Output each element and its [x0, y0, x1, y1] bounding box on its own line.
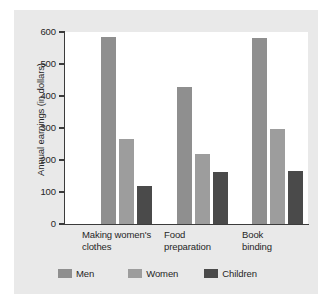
legend-swatch-women: [128, 269, 142, 278]
bar-women-1: [195, 154, 210, 224]
x-axis-label-1: Food preparation: [164, 229, 211, 252]
y-axis-tick-label: 500: [40, 59, 56, 69]
legend-item-men: Men: [58, 268, 94, 279]
bar-men-0: [101, 37, 116, 224]
y-axis-tick-label: 600: [40, 27, 56, 37]
bar-women-2: [270, 129, 285, 224]
bar-men-1: [177, 87, 192, 224]
y-axis-title: Annual earnings (in dollars): [35, 30, 46, 210]
bar-men-2: [252, 38, 267, 224]
legend-label-women: Women: [146, 268, 178, 279]
y-axis-tick: [59, 127, 65, 128]
y-axis-tick: [59, 223, 65, 224]
legend-label-men: Men: [76, 268, 94, 279]
legend-swatch-children: [204, 269, 218, 278]
chart-figure: Annual earnings (in dollars) 01002003004…: [14, 10, 318, 294]
y-axis-tick: [59, 31, 65, 32]
x-axis-label-0: Making women's clothes: [82, 229, 151, 252]
y-axis-tick: [59, 95, 65, 96]
legend-swatch-men: [58, 269, 72, 278]
y-axis-tick-label: 0: [51, 219, 56, 229]
y-axis-tick-label: 200: [40, 155, 56, 165]
x-axis-label-2: Book binding: [242, 229, 272, 252]
y-axis-tick: [59, 191, 65, 192]
x-axis-line: [64, 224, 309, 225]
y-axis-tick-label: 100: [40, 187, 56, 197]
bar-children-0: [137, 186, 152, 224]
legend-item-women: Women: [128, 268, 178, 279]
y-axis-tick: [59, 159, 65, 160]
y-axis-tick-label: 400: [40, 91, 56, 101]
chart-legend: MenWomenChildren: [58, 268, 257, 279]
bar-children-1: [213, 172, 228, 224]
y-axis-tick-label: 300: [40, 123, 56, 133]
legend-label-children: Children: [222, 268, 257, 279]
bar-women-0: [119, 139, 134, 224]
legend-item-children: Children: [204, 268, 257, 279]
y-axis-tick: [59, 63, 65, 64]
bar-children-2: [288, 171, 303, 224]
